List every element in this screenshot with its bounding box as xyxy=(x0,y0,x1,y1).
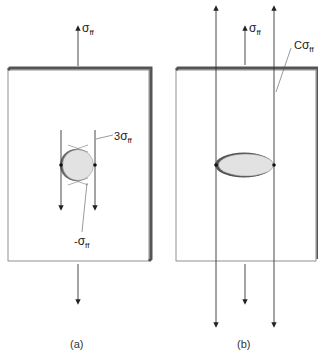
panel-a-pole-stress-label: -σff xyxy=(74,235,89,247)
panel-a-caption: (a) xyxy=(70,339,83,350)
panel-a-edge-stress-label: 3σff xyxy=(114,130,132,142)
panel-b-edge-stress-label: Cσff xyxy=(294,39,314,51)
panel-a-top-load-label: σff xyxy=(82,22,94,34)
panel-b-caption: (b) xyxy=(237,339,250,350)
panel-b-top-load-label: σff xyxy=(249,22,261,34)
stress-concentration-diagram xyxy=(0,0,318,358)
